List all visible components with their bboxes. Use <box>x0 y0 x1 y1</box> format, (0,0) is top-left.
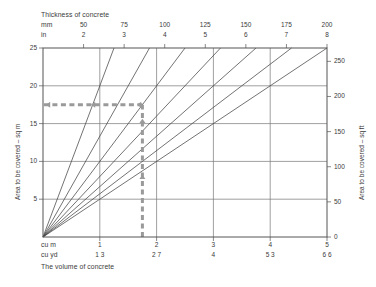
chart-root: Thickness of concrete mm in cu m cu yd T… <box>0 0 376 287</box>
thickness-lines <box>43 48 327 237</box>
chart-canvas <box>0 0 376 287</box>
